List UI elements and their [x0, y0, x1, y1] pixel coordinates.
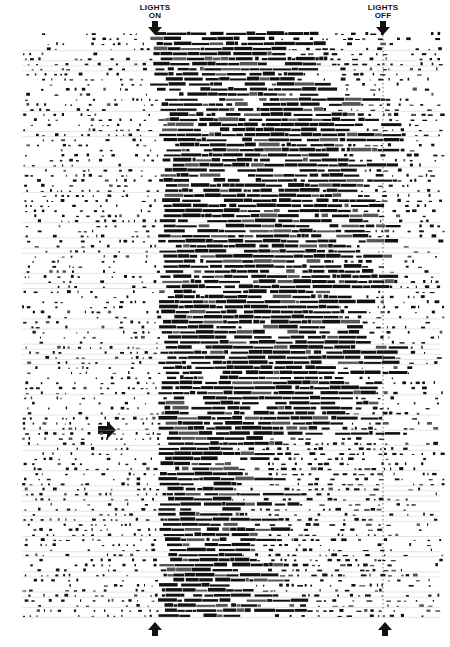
actogram-plot [0, 0, 450, 647]
activity-rows [22, 31, 445, 617]
